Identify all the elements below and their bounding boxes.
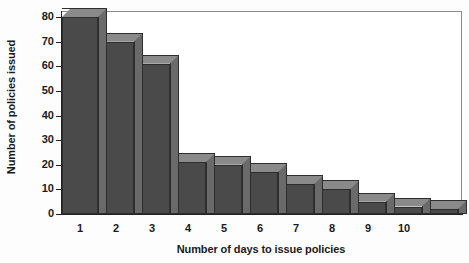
x-tick-label: 1 (62, 222, 98, 235)
bar-side-face (206, 153, 215, 214)
y-tick (56, 140, 61, 141)
y-tick (56, 214, 61, 215)
y-tick-label: 80 (26, 11, 54, 22)
x-tick-label: 6 (242, 222, 278, 235)
histogram-chart: 01020304050607080 12345678910 Number of … (0, 0, 469, 263)
x-tick-label: 10 (386, 222, 422, 235)
y-tick-label: 50 (26, 85, 54, 96)
bar-top-edge (62, 8, 107, 17)
y-axis-title: Number of policies issued (2, 2, 20, 212)
y-tick (56, 17, 61, 18)
y-tick-label: 0 (26, 208, 54, 219)
bar-side-face (98, 8, 107, 214)
x-tick-label: 8 (314, 222, 350, 235)
x-tick-label: 9 (350, 222, 386, 235)
y-tick-label: 40 (26, 110, 54, 121)
x-tick-label: 5 (206, 222, 242, 235)
y-tick (56, 165, 61, 166)
y-axis-line (61, 11, 62, 215)
y-tick (56, 189, 61, 190)
x-tick-label: 2 (98, 222, 134, 235)
y-tick-label: 10 (26, 183, 54, 194)
y-tick (56, 42, 61, 43)
y-tick (56, 91, 61, 92)
bar-front-face (62, 17, 98, 214)
y-tick (56, 116, 61, 117)
bar-side-face (170, 55, 179, 214)
y-tick-label: 70 (26, 36, 54, 47)
y-tick-label: 30 (26, 134, 54, 145)
x-axis-title: Number of days to issue policies (60, 243, 462, 255)
x-tick-label: 3 (134, 222, 170, 235)
bar-side-face (134, 33, 143, 214)
x-axis-line (61, 214, 463, 215)
y-tick (56, 66, 61, 67)
y-tick-label: 20 (26, 159, 54, 170)
x-tick-label: 4 (170, 222, 206, 235)
x-tick-label: 7 (278, 222, 314, 235)
y-tick-label: 60 (26, 60, 54, 71)
